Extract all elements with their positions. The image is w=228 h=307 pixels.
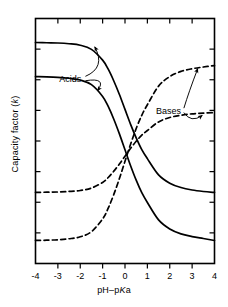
plot-border [36,19,215,264]
x-tick-label: 0 [122,271,127,281]
curve-acid-2 [36,77,215,241]
plot-frame [36,19,215,264]
x-axis-label-suffix: a [126,285,131,295]
data-curves [36,43,215,241]
annotation-arrow-bases-1 [184,69,198,108]
annotation-arrow-acids-1 [85,47,98,76]
x-tick-label: 4 [212,271,217,281]
y-axis-label-suffix: ) [10,96,20,99]
curve-annotations: AcidsBases [59,47,202,119]
x-tick-label: -1 [99,271,107,281]
y-axis-label-italic: k [10,99,20,104]
y-axis-label-wrapper: Capacity factor (k) [10,54,26,214]
x-tick-label: -2 [76,271,84,281]
x-axis-label: pH–pKa [0,285,228,295]
x-tick-label: -3 [54,271,62,281]
figure-container: -4-3-2-101234 AcidsBases pH–pKa Capacity… [0,0,228,307]
y-axis-label: Capacity factor (k) [10,54,20,214]
x-tick-label: -4 [31,271,39,281]
curve-base-2 [36,113,215,193]
x-tick-label: 1 [145,271,150,281]
curve-base-1 [36,66,215,241]
x-tick-label: 3 [190,271,195,281]
x-tick-label: 2 [167,271,172,281]
annotation-label-acids: Acids [59,74,82,84]
y-axis-label-prefix: Capacity factor ( [10,103,20,172]
curve-acid-1 [36,43,215,193]
annotation-label-bases: Bases [156,106,182,116]
x-axis-label-prefix: pH–p [97,285,119,295]
chart-plot: -4-3-2-101234 AcidsBases [0,0,228,307]
